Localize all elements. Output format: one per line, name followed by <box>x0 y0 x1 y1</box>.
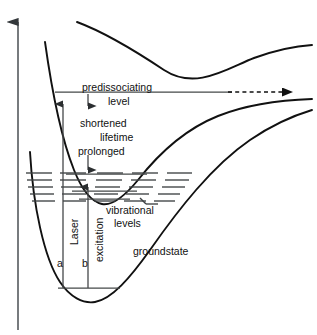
groundstate-curve <box>30 110 312 302</box>
predissociation-potential-energy-diagram: predissociating level shortened lifetime… <box>0 0 317 335</box>
shortened-label: shortened <box>80 118 127 129</box>
groundstate-label: groundstate <box>133 246 188 257</box>
transition-b-label: b <box>82 258 88 269</box>
excitation-label: excitation <box>93 218 105 262</box>
vibrational-label: vibrational <box>106 205 154 216</box>
predissociating-label: predissociating <box>82 82 152 93</box>
vibrational-levels-group <box>26 173 192 201</box>
laser-label: Laser <box>68 219 80 245</box>
levels-label: levels <box>114 218 141 229</box>
level-label: level <box>108 96 130 107</box>
transition-a-label: a <box>57 258 63 269</box>
repulsive-curve <box>77 22 312 79</box>
lifetime-label: lifetime <box>100 132 133 143</box>
prolonged-label: prolonged <box>78 146 125 157</box>
diagram-canvas <box>0 0 317 335</box>
